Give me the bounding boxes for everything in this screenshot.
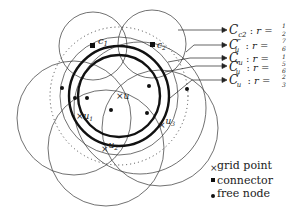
svg-text:3: 3 [282, 81, 286, 88]
grid-point-u1: ×u1 [76, 111, 93, 122]
svg-text:2: 2 [281, 30, 286, 37]
legend-dot-icon [211, 194, 215, 198]
free-node [85, 96, 89, 100]
connector-c1 [90, 43, 95, 48]
label-cu-prime: C′u : r = [229, 73, 270, 89]
legend-grid-point: grid point [217, 159, 273, 172]
free-node [60, 86, 64, 90]
label-c-c2: Cc2 : r = [229, 23, 273, 39]
free-node [109, 108, 113, 112]
legend-connector: connector [217, 174, 274, 187]
svg-text:7: 7 [282, 37, 286, 44]
free-node [147, 84, 151, 88]
free-node [73, 96, 77, 100]
svg-text:1: 1 [282, 22, 286, 29]
circle-diagram: c1 c2 ×u ×u1 ×u2 ×u3 Cc2 : r = 12 C‴u : … [0, 0, 294, 220]
free-node [145, 111, 149, 115]
grid-point-u3: ×u3 [158, 116, 175, 130]
connector-c2 [150, 42, 155, 47]
svg-text:2: 2 [281, 73, 286, 80]
svg-text:6: 6 [282, 45, 286, 52]
svg-text:5: 5 [282, 60, 286, 67]
legend-free-node: free node [217, 187, 270, 200]
free-node [185, 87, 189, 91]
legend-square-icon [211, 178, 215, 182]
legend: × grid point connector free node [210, 159, 274, 200]
grid-point-u: ×u [116, 91, 130, 101]
connector-label: c1 [98, 35, 108, 48]
svg-text:1: 1 [282, 53, 286, 60]
connector-label: c2 [157, 40, 166, 51]
